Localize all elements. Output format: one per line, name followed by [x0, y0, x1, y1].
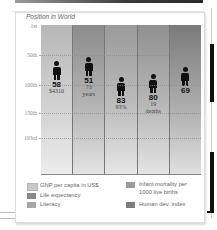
legend-swatch-literacy	[27, 202, 36, 208]
legend-label-life-expectancy: Life expectancy	[40, 192, 80, 200]
legend-label-infant-mortality: Infant mortality per 1000 live births	[139, 181, 187, 196]
legend-label-infant-mortality-line1: Infant mortality per	[139, 181, 187, 189]
legend-label-literacy: Literacy	[40, 201, 60, 209]
legend-swatch-human-dev-index	[126, 202, 135, 208]
legend-swatch-gnp	[27, 183, 38, 191]
legend-swatch-infant-mortality	[126, 182, 135, 188]
legend: GNP per capita in US$ Life expectancy Li…	[0, 0, 217, 230]
legend-label-infant-mortality-line2: 1000 live births	[139, 189, 187, 197]
legend-label-human-dev-index: Human dev. index	[139, 201, 185, 209]
legend-label-gnp: GNP per capita in US$	[40, 182, 99, 190]
legend-swatch-life-expectancy	[27, 193, 36, 199]
